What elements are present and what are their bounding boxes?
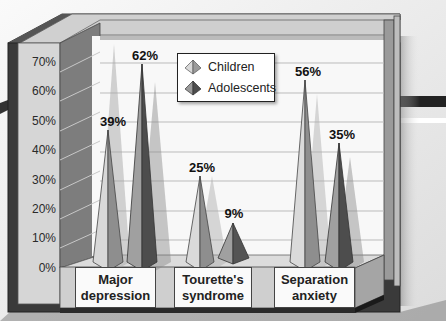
category-label-major-depression: Major depression [75, 267, 156, 308]
y-tick-label: 50% [22, 114, 56, 128]
y-tick-label: 40% [22, 143, 56, 157]
legend-item-children: Children [184, 58, 255, 76]
category-label-tourettes-syndrome: Tourette's syndrome [174, 267, 252, 308]
legend-item-adolescents: Adolescents [184, 79, 276, 97]
value-label: 39% [93, 114, 133, 129]
value-label: 56% [288, 64, 328, 79]
value-label: 25% [182, 160, 222, 175]
value-label: 9% [214, 206, 254, 221]
legend: Children Adolescents [177, 53, 275, 102]
chart-figure: 70% 60% 50% 40% 30% 20% 10% 0% 39% 62% 2… [0, 0, 446, 321]
y-tick-label: 70% [22, 55, 56, 69]
pyramid-dark-icon [184, 80, 202, 96]
value-label: 62% [125, 48, 165, 63]
y-tick-label: 30% [22, 173, 56, 187]
y-tick-label: 0% [22, 261, 56, 275]
category-label-separation-anxiety: Separation anxiety [274, 267, 355, 308]
value-label: 35% [322, 127, 362, 142]
pyramid-light-icon [184, 59, 202, 75]
y-tick-label: 20% [22, 202, 56, 216]
y-tick-label: 10% [22, 231, 56, 245]
y-tick-label: 60% [22, 84, 56, 98]
